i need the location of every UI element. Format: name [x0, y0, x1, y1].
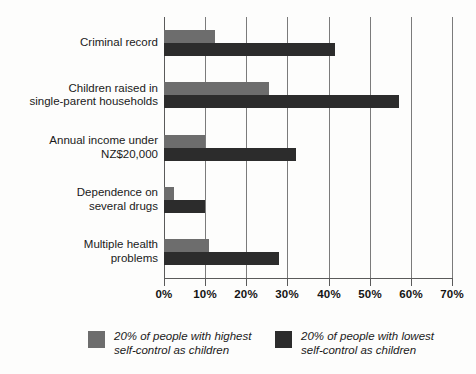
tick-mark-40	[329, 278, 330, 286]
bar-group	[164, 239, 452, 265]
tick-mark-50	[370, 278, 371, 286]
tick-mark-30	[287, 278, 288, 286]
bar-lowest-self-control	[164, 95, 399, 108]
bar-group	[164, 82, 452, 108]
legend-item: 20% of people with lowestself-control as…	[275, 330, 434, 357]
tick-label-20: 20%	[234, 288, 258, 300]
x-axis-line	[164, 278, 453, 279]
bar-group	[164, 30, 452, 56]
bar-lowest-self-control	[164, 200, 205, 213]
tick-mark-10	[205, 278, 206, 286]
category-label: Dependence on several drugs	[3, 186, 158, 213]
bar-lowest-self-control	[164, 43, 335, 56]
bar-highest-self-control	[164, 239, 209, 252]
tick-label-30: 30%	[275, 288, 299, 300]
bar-highest-self-control	[164, 30, 215, 43]
category-axis-labels: Criminal recordChildren raised in single…	[0, 17, 158, 278]
bar-group	[164, 187, 452, 213]
legend-label: 20% of people with lowestself-control as…	[301, 330, 434, 357]
tick-mark-0	[164, 278, 165, 286]
bar-highest-self-control	[164, 135, 205, 148]
legend-item: 20% of people with highestself-control a…	[88, 330, 251, 357]
bar-group	[164, 135, 452, 161]
legend-emphasis: lowest	[401, 330, 434, 342]
bar-lowest-self-control	[164, 148, 296, 161]
bar-highest-self-control	[164, 82, 269, 95]
tick-label-40: 40%	[317, 288, 341, 300]
tick-mark-70	[452, 278, 453, 286]
bar-highest-self-control	[164, 187, 174, 200]
category-label: Children raised in single-parent househo…	[3, 82, 158, 109]
legend-swatch-high-self-control	[88, 331, 105, 348]
legend-swatch-low-self-control	[275, 331, 292, 348]
tick-label-60: 60%	[399, 288, 423, 300]
tick-label-70: 70%	[440, 288, 464, 300]
tick-label-10: 10%	[193, 288, 217, 300]
tick-label-0: 0%	[155, 288, 172, 300]
bar-chart: Criminal recordChildren raised in single…	[0, 0, 476, 374]
tick-label-50: 50%	[358, 288, 382, 300]
chart-legend: 20% of people with highestself-control a…	[0, 330, 476, 370]
plot-area	[164, 17, 452, 278]
legend-label: 20% of people with highestself-control a…	[114, 330, 251, 357]
bar-lowest-self-control	[164, 252, 279, 265]
tick-mark-20	[246, 278, 247, 286]
category-label: Criminal record	[3, 36, 158, 50]
gridline-70	[452, 17, 453, 278]
legend-emphasis: highest	[214, 330, 251, 342]
category-label: Annual income under NZ$20,000	[3, 134, 158, 161]
tick-mark-60	[411, 278, 412, 286]
category-label: Multiple health problems	[3, 238, 158, 265]
